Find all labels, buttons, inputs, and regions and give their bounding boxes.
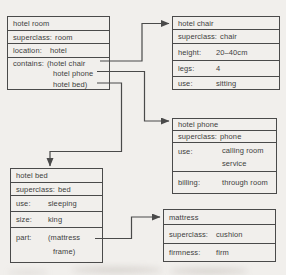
row-label: contains: bbox=[13, 58, 47, 68]
row-label: use: bbox=[178, 79, 216, 88]
arrow-part-mattress bbox=[95, 217, 160, 239]
frame-row: use: sleeping bbox=[11, 196, 102, 212]
frame-row: height: 20–40cm bbox=[173, 44, 279, 61]
frame-row: superclass: cushion bbox=[164, 225, 275, 244]
frame-row: superclass: room bbox=[8, 31, 109, 44]
scan-smudge bbox=[72, 267, 162, 273]
row-value: room bbox=[55, 33, 73, 42]
frame-row: superclass: bed bbox=[11, 183, 102, 196]
row-label: location: bbox=[13, 46, 50, 55]
row-value: 4 bbox=[216, 64, 220, 73]
row-label: superclass: bbox=[178, 32, 217, 41]
row-label: size: bbox=[16, 215, 48, 224]
row-value: (mattress frame) bbox=[48, 228, 80, 259]
row-value: firm bbox=[216, 248, 229, 257]
frame-hotel-phone: hotel phone superclass: phone use: calli… bbox=[172, 118, 277, 194]
frame-row: billing: through room bbox=[173, 172, 276, 193]
row-value: cushion bbox=[216, 230, 243, 239]
row-label: height: bbox=[178, 48, 216, 57]
frame-row: part: (mattress frame) bbox=[11, 228, 102, 262]
row-value: phone bbox=[220, 132, 241, 141]
row-value: sleeping bbox=[48, 199, 77, 208]
arrow-contains-hotel-bed bbox=[50, 83, 122, 166]
row-label: legs: bbox=[178, 64, 216, 73]
frame-row: superclass: chair bbox=[173, 30, 279, 44]
row-label: part: bbox=[16, 228, 48, 242]
row-value: through room bbox=[222, 178, 268, 187]
frame-title: mattress bbox=[164, 210, 275, 225]
row-value: chair bbox=[220, 32, 237, 41]
frame-diagram: hotel room superclass: room location: ho… bbox=[0, 0, 286, 275]
frame-row: contains: (hotel chair hotel phone hotel… bbox=[8, 58, 109, 89]
row-label: firmness: bbox=[169, 248, 216, 257]
row-label: superclass: bbox=[16, 185, 55, 194]
row-value: bed bbox=[58, 185, 71, 194]
row-label: superclass: bbox=[13, 33, 52, 42]
frame-row: size: king bbox=[11, 212, 102, 228]
row-value: (hotel chair hotel phone hotel bed) bbox=[47, 58, 93, 89]
frame-row: legs: 4 bbox=[173, 61, 279, 77]
row-label: use: bbox=[16, 199, 48, 208]
row-value: calling room service bbox=[222, 143, 264, 170]
frame-title: hotel chair bbox=[173, 17, 279, 30]
frame-row: location: hotel bbox=[8, 44, 109, 58]
frame-hotel-bed: hotel bed superclass: bed use: sleeping … bbox=[10, 168, 103, 263]
row-value: sitting bbox=[216, 79, 236, 88]
arrow-contains-hotel-chair bbox=[100, 24, 169, 62]
frame-mattress: mattress superclass: cushion firmness: f… bbox=[163, 209, 276, 262]
row-value: king bbox=[48, 215, 62, 224]
frame-row: firmness: firm bbox=[164, 244, 275, 261]
frame-row: use: sitting bbox=[173, 77, 279, 89]
row-label: superclass: bbox=[178, 132, 217, 141]
scan-smudge bbox=[170, 268, 248, 274]
frame-hotel-chair: hotel chair superclass: chair height: 20… bbox=[172, 16, 280, 90]
row-label: use: bbox=[178, 143, 222, 156]
frame-row: superclass: phone bbox=[173, 131, 276, 143]
row-label: superclass: bbox=[169, 230, 216, 239]
frame-title: hotel room bbox=[8, 17, 109, 31]
row-value: 20–40cm bbox=[216, 48, 248, 57]
frame-title: hotel bed bbox=[11, 169, 102, 183]
frame-hotel-room: hotel room superclass: room location: ho… bbox=[7, 16, 110, 90]
frame-row: use: calling room service bbox=[173, 143, 276, 172]
row-label: billing: bbox=[178, 178, 222, 187]
row-value: hotel bbox=[50, 46, 67, 55]
frame-title: hotel phone bbox=[173, 119, 276, 131]
scan-smudge bbox=[8, 270, 48, 275]
